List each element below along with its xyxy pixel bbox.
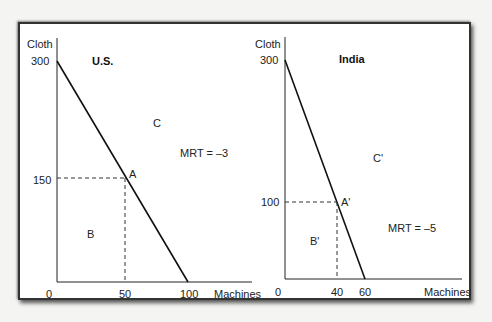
india-region-c: C' — [373, 152, 383, 164]
us-ylabel: Cloth — [27, 38, 53, 50]
us-region-c: C — [153, 117, 161, 129]
india-ylabel: Cloth — [255, 38, 281, 50]
india-mrt: MRT = –5 — [388, 222, 436, 234]
us-chart: Cloth 300 150 U.S. C MRT = –3 A B 0 50 1… — [27, 38, 262, 300]
india-xtick-40: 40 — [331, 286, 343, 298]
us-title: U.S. — [92, 55, 113, 67]
india-region-b: B' — [310, 235, 319, 247]
us-xtick-100: 100 — [180, 288, 198, 300]
us-xlabel: Machines — [214, 288, 262, 300]
us-region-b: B — [87, 228, 94, 240]
india-ppf-line — [285, 60, 365, 279]
us-xtick-0: 0 — [46, 288, 52, 300]
india-xtick-0: 0 — [275, 286, 281, 298]
india-title: India — [339, 53, 366, 65]
us-ytick-150: 150 — [33, 174, 51, 186]
india-ytick-300: 300 — [260, 54, 278, 66]
india-xtick-60: 60 — [359, 286, 371, 298]
india-chart: Cloth 300 100 India C' A' MRT = –5 B' 0 … — [255, 37, 472, 298]
ppf-charts: Cloth 300 150 U.S. C MRT = –3 A B 0 50 1… — [0, 0, 492, 322]
india-xlabel: Machines — [424, 286, 472, 298]
us-point-a: A — [129, 168, 137, 180]
us-ytick-300: 300 — [31, 55, 49, 67]
india-point-a: A' — [341, 196, 350, 208]
us-xtick-50: 50 — [119, 288, 131, 300]
india-ytick-100: 100 — [261, 196, 279, 208]
us-ppf-line — [57, 61, 188, 282]
us-mrt: MRT = –3 — [180, 147, 228, 159]
